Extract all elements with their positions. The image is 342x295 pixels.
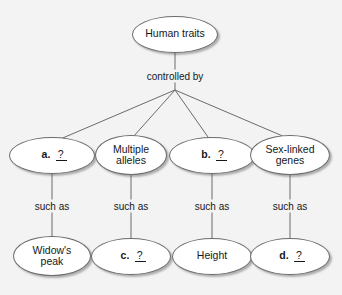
node-label-widows-peak: Widow's peak — [29, 245, 76, 268]
node-multiple-alleles: Multiple alleles — [95, 135, 167, 175]
node-widows-peak: Widow's peak — [13, 236, 91, 276]
edge-hub-to-a — [58, 90, 175, 140]
node-human-traits: Human traits — [132, 16, 218, 53]
node-label-sex-linked-genes: Sex-linked genes — [261, 144, 318, 167]
edge-label-such-as-c: such as — [192, 200, 232, 213]
node-label-c-blank: c. — [116, 250, 133, 261]
node-sex-linked-genes: Sex-linked genes — [250, 135, 330, 175]
node-label-d-blank: d. — [275, 250, 293, 261]
node-b-blank[interactable]: b.? — [169, 137, 255, 174]
edge-label-such-as-b: such as — [111, 200, 151, 213]
blank-answer-c-blank[interactable]: ? — [135, 250, 146, 262]
node-c-blank[interactable]: c.? — [91, 238, 171, 275]
edge-label-controlled-by: controlled by — [144, 70, 207, 83]
node-a-blank[interactable]: a.? — [9, 137, 95, 174]
node-label-a-blank: a. — [37, 149, 54, 160]
blank-answer-b-blank[interactable]: ? — [216, 149, 227, 161]
node-label-multiple-alleles: Multiple alleles — [109, 144, 153, 167]
node-label-height: Height — [193, 250, 231, 261]
node-d-blank[interactable]: d.? — [250, 238, 330, 275]
edge-hub-to-multiple-alleles — [133, 90, 175, 137]
concept-map-diagram: Human traitsa.?Multiple allelesb.?Sex-li… — [0, 0, 342, 295]
node-height: Height — [172, 238, 252, 275]
node-label-human-traits: Human traits — [141, 28, 209, 39]
edge-label-such-as-a: such as — [32, 200, 72, 213]
node-label-b-blank: b. — [197, 149, 215, 160]
edge-label-such-as-d: such as — [270, 200, 310, 213]
blank-answer-d-blank[interactable]: ? — [294, 250, 305, 262]
blank-answer-a-blank[interactable]: ? — [56, 149, 67, 161]
